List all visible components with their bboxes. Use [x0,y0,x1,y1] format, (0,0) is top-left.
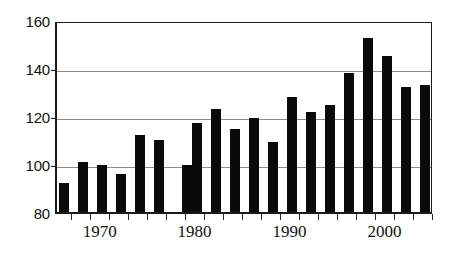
y-tick-label-160: 160 [6,14,50,29]
y-axis: 160 140 120 100 80 [0,0,50,260]
x-tick-mark [356,214,357,220]
plot-area [55,22,432,214]
x-tick-mark [375,214,376,220]
bar [192,123,202,212]
bar [97,165,107,212]
bar [154,140,164,212]
bars-layer [57,23,431,212]
y-tick-label-80: 80 [6,206,50,221]
bar [182,165,192,212]
bar [78,162,88,212]
bar [211,109,221,212]
x-axis-ticks [55,214,432,222]
x-axis-labels: 1970198019902000 [0,222,455,252]
bar [401,87,411,212]
bar [135,135,145,212]
bar [382,56,392,212]
x-axis-label-2000: 2000 [368,222,402,242]
y-tick-label-140: 140 [6,62,50,77]
bar [287,97,297,212]
x-tick-mark [223,214,224,220]
x-tick-mark [166,214,167,220]
x-tick-mark [128,214,129,220]
bar [344,73,354,212]
x-axis-label-1980: 1980 [178,222,212,242]
y-tick-label-120: 120 [6,110,50,125]
bar [116,174,126,212]
x-tick-mark [299,214,300,220]
y-tick-label-100: 100 [6,158,50,173]
x-tick-mark [394,214,395,220]
x-tick-mark [337,214,338,220]
bar [230,129,240,212]
x-tick-mark [90,214,91,220]
x-tick-mark [109,214,110,220]
x-tick-mark [318,214,319,220]
bar [363,38,373,212]
bar [268,142,278,212]
bar [249,118,259,212]
x-tick-mark [413,214,414,220]
x-tick-mark [204,214,205,220]
x-axis-label-1970: 1970 [83,222,117,242]
bar [420,85,430,212]
x-tick-mark [261,214,262,220]
bar [59,183,69,212]
bar-chart: 160 140 120 100 80 1970198019902000 [0,0,455,260]
bar [306,112,316,212]
x-tick-mark [185,214,186,220]
x-tick-mark [432,214,433,220]
x-axis-label-1990: 1990 [273,222,307,242]
x-tick-mark [280,214,281,220]
bar [325,105,335,212]
x-tick-mark [71,214,72,220]
x-tick-mark [147,214,148,220]
x-tick-mark [242,214,243,220]
